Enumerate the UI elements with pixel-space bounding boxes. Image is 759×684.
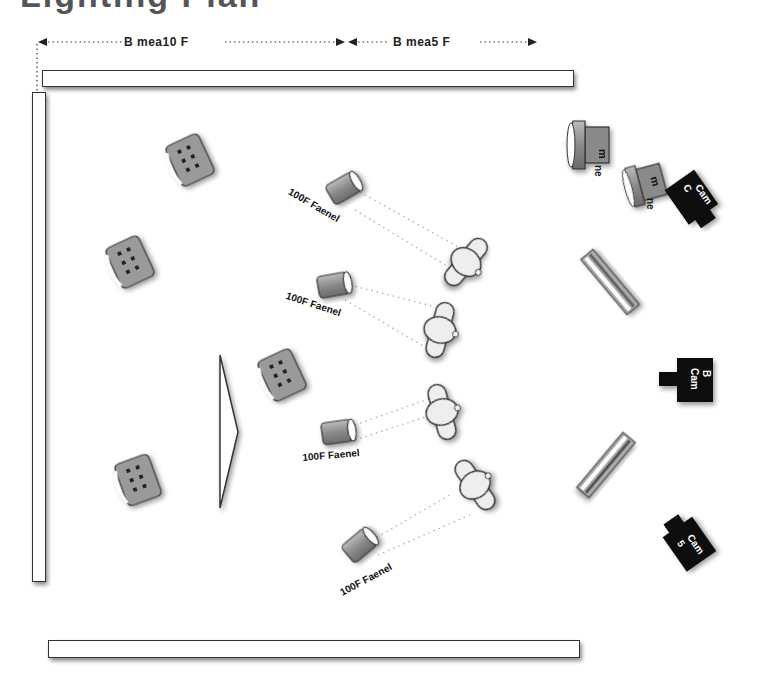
fluorescent-bank-2 <box>577 432 636 497</box>
reflector-triangle <box>220 355 238 508</box>
camera-b-letter: B <box>701 370 712 377</box>
spotlight-1-label: ne <box>593 165 604 177</box>
performer-1 <box>436 230 499 295</box>
spotlight-2-label: ne <box>645 198 656 210</box>
ambient-light-1 <box>162 132 216 188</box>
camera-b-label: Cam <box>689 368 700 390</box>
ambient-light-4 <box>111 453 163 508</box>
spotlight-1: m <box>567 121 609 169</box>
fresnel-light-3 <box>321 419 358 446</box>
camera-c <box>665 170 724 233</box>
ambient-light-3 <box>254 347 308 403</box>
fresnel-light-4 <box>341 525 381 564</box>
fresnel-light-1 <box>325 169 365 205</box>
camera-b <box>659 358 713 402</box>
fluorescent-bank-1 <box>581 249 640 314</box>
performer-4 <box>446 451 507 517</box>
ambient-light-2 <box>102 234 156 290</box>
fresnel-light-2 <box>316 271 353 299</box>
svg-text:m: m <box>597 149 609 159</box>
performer-3 <box>419 380 467 443</box>
performer-2 <box>417 299 465 362</box>
fixtures-layer: m <box>0 0 759 684</box>
